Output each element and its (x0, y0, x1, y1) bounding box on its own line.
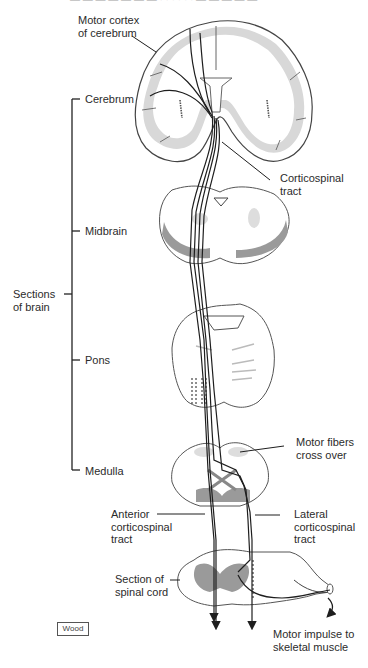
label-corticospinal-tract: Corticospinal tract (280, 172, 344, 197)
label-medulla: Medulla (85, 465, 124, 478)
label-motor-impulse: Motor impulse to skeletal muscle (273, 628, 354, 653)
pons-section (172, 304, 274, 407)
label-pons: Pons (85, 354, 110, 367)
label-midbrain: Midbrain (85, 225, 127, 238)
label-section-of-spinal-cord: Section of spinal cord (115, 573, 168, 598)
label-motor-fibers-cross-over: Motor fibers cross over (296, 436, 354, 461)
midbrain-section (160, 186, 290, 264)
label-sections-of-brain: Sections of brain (13, 288, 55, 313)
spinal-cord-section (178, 550, 333, 606)
corticospinal-pathway-diagram (0, 0, 368, 668)
label-anterior-corticospinal-tract: Anterior corticospinal tract (111, 508, 172, 546)
credit-wood: Wood (57, 622, 89, 636)
sections-bracket (64, 99, 80, 470)
motor-impulse-arrow (328, 598, 333, 616)
label-lateral-corticospinal-tract: Lateral corticospinal tract (294, 508, 355, 546)
label-motor-cortex: Motor cortex of cerebrum (78, 14, 139, 39)
label-cerebrum: Cerebrum (85, 93, 134, 106)
